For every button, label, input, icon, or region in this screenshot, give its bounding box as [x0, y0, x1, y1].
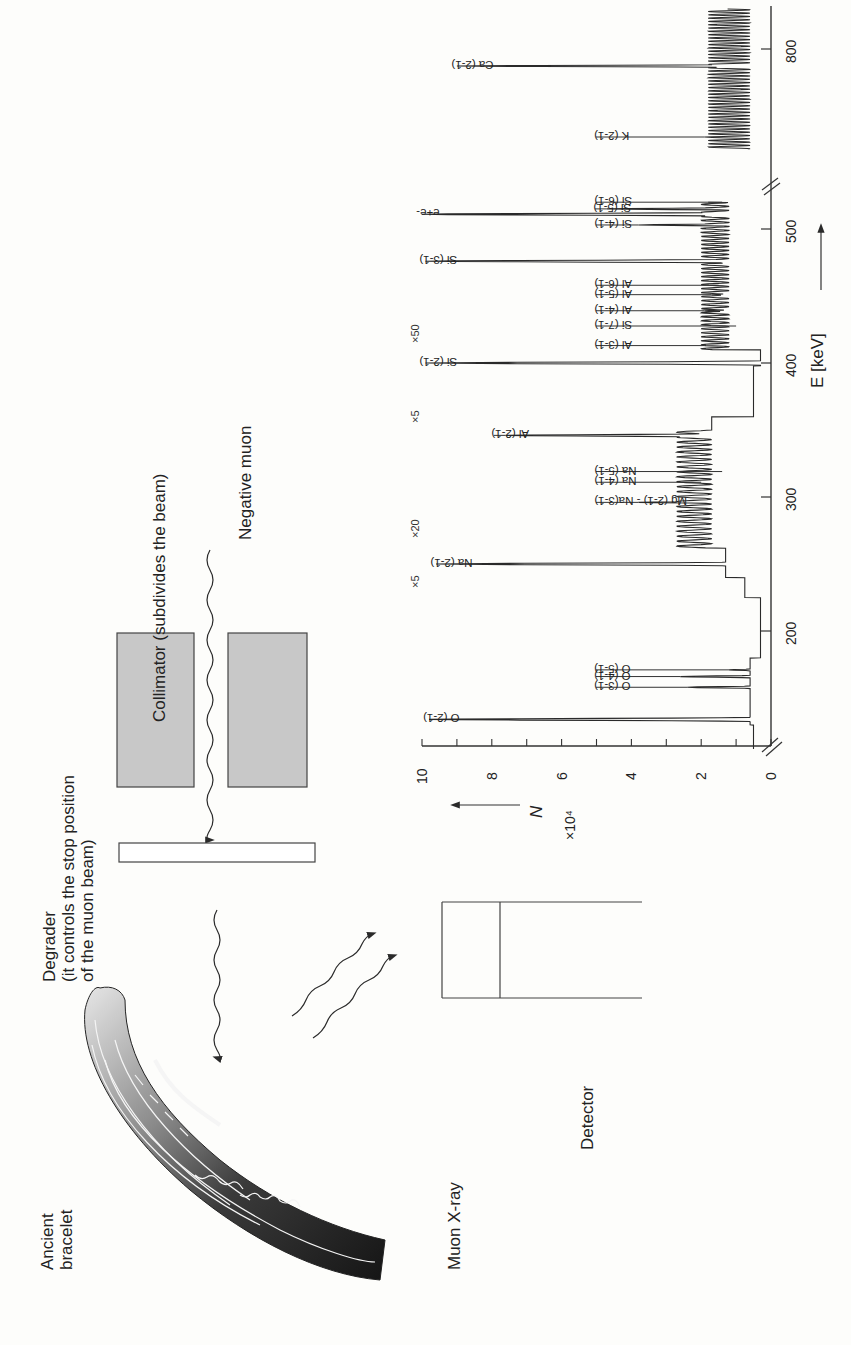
peak-label: K (2-1): [594, 130, 638, 142]
peak-label: Na (4-1): [594, 475, 644, 487]
count-axis-multiplier: ×10⁴: [562, 810, 578, 840]
collimator-block-right: [228, 633, 307, 787]
axis-break-icon: [762, 178, 782, 756]
energy-ticks: [761, 49, 771, 631]
peak-label: Na (5-1): [594, 465, 644, 477]
peak-label: Si (7-1): [594, 319, 644, 331]
energy-tick-label: 200: [783, 622, 799, 645]
energy-tick-label: 300: [783, 488, 799, 511]
count-tick-label: 10: [414, 768, 430, 784]
count-ticks: [422, 739, 771, 746]
muon-xray-wave-1: [292, 934, 372, 1016]
muon-xray-wave-2: [313, 956, 393, 1038]
ancient-bracelet-label: Ancient bracelet: [38, 1210, 76, 1270]
count-tick-label: 0: [763, 772, 779, 780]
count-tick-label: 2: [693, 772, 709, 780]
ancient-bracelet: [85, 987, 385, 1280]
muon-xray-figure: [0, 0, 851, 1345]
degrader-plate: [119, 843, 315, 862]
negative-muon-beam: [207, 550, 213, 840]
scale-factor-label: ×20: [409, 519, 421, 538]
peak-label: Ca (2-1): [451, 59, 501, 71]
count-axis-label: N: [527, 806, 546, 818]
energy-tick-label: 400: [783, 354, 799, 377]
degrader-label: Degrader (it controls the stop position …: [40, 775, 97, 982]
scale-factor-label: ×5: [409, 410, 421, 423]
scale-factor-label: ×50: [409, 324, 421, 343]
peak-label: O (3-1): [594, 680, 638, 692]
muon-xray-label: Muon X-ray: [445, 1182, 464, 1270]
collimator-label: Collimator (subdivides the beam): [150, 474, 169, 723]
negative-muon-label: Negative muon: [236, 426, 255, 540]
peak-label: Al (4-1): [594, 304, 644, 316]
muon-beam-after-degrader: [214, 910, 220, 1058]
count-tick-label: 6: [554, 772, 570, 780]
scale-factor-label: ×5: [409, 575, 421, 588]
detector-label: Detector: [578, 1086, 597, 1150]
peak-label: O (2-1): [423, 712, 467, 724]
peak-label: Si (4-1): [594, 218, 644, 230]
peak-label: e+e-: [416, 207, 441, 219]
peak-label: O (5-1): [594, 663, 638, 675]
energy-tick-label: 800: [783, 40, 799, 63]
count-tick-label: 4: [623, 772, 639, 780]
energy-axis-label: E [keV]: [808, 333, 827, 388]
count-tick-label: 8: [484, 772, 500, 780]
peak-label: Na (2-1): [430, 557, 480, 569]
detector: [442, 902, 642, 998]
peak-label: Al (3-1): [594, 339, 644, 351]
energy-tick-label: 500: [783, 220, 799, 243]
peak-label: Si (6-1): [594, 195, 644, 207]
peak-label: Al (2-1): [492, 428, 542, 440]
peak-label: Mg (2-1) - Na(3-1): [594, 495, 707, 507]
peak-label: Si (2-1): [419, 356, 469, 368]
peak-label: Si (3-1): [419, 254, 469, 266]
spectrum-line: [422, 9, 761, 749]
peak-label: Al (6-1): [594, 278, 644, 290]
